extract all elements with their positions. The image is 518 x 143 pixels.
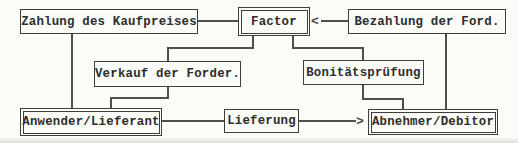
connector-lieferung-abnehmer-line: [299, 120, 356, 122]
connector-bezahlung-abnehmer: [445, 33, 447, 110]
node-zahlung-des-kaufpreises: Zahlung des Kaufpreises: [20, 9, 198, 34]
connector-bonitaet-abnehmer-run: [362, 98, 404, 100]
arrowhead-right-icon: >: [356, 115, 364, 128]
connector-bezahlung-factor-line: [321, 20, 349, 22]
node-label: Abnehmer/Debitor: [372, 115, 494, 129]
scan-shadow: [0, 137, 518, 143]
connector-anwender-lieferung: [162, 120, 224, 122]
node-abnehmer-debitor: Abnehmer/Debitor: [368, 109, 498, 135]
node-label: Bezahlung der Ford.: [354, 15, 499, 29]
connector-factor-bonitaet-run: [292, 47, 364, 49]
node-lieferung: Lieferung: [224, 109, 299, 133]
connector-zahlung-anwender: [71, 33, 73, 109]
connector-factor-verkauf-run: [167, 47, 254, 49]
connector-verkauf-anwender-run: [110, 97, 169, 99]
node-bezahlung-der-forderung: Bezahlung der Ford.: [348, 9, 506, 34]
node-label: Zahlung des Kaufpreises: [21, 15, 197, 29]
connector-factor-verkauf-down: [167, 47, 169, 62]
node-label: Bonitätsprüfung: [306, 66, 421, 80]
node-label: Factor: [251, 15, 297, 29]
node-anwender-lieferant: Anwender/Lieferant: [20, 108, 162, 136]
node-label: Verkauf der Forder.: [95, 67, 240, 81]
connector-bonitaet-abnehmer-drop: [362, 84, 364, 99]
factoring-diagram: < > Zahlung des Kaufpreises Factor Bezah…: [0, 0, 518, 143]
node-label: Anwender/Lieferant: [22, 115, 159, 129]
node-label: Lieferung: [227, 114, 296, 128]
node-verkauf-der-forderung: Verkauf der Forder.: [94, 61, 241, 87]
node-bonitaetspruefung: Bonitätsprüfung: [303, 60, 424, 85]
node-factor: Factor: [238, 7, 310, 36]
connector-zahlung-factor: [198, 20, 239, 22]
connector-factor-bonitaet-down: [362, 47, 364, 61]
arrowhead-left-icon: <: [311, 15, 319, 28]
